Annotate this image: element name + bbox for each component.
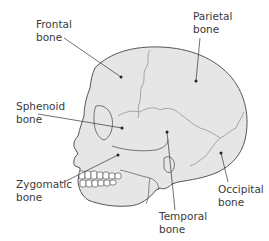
- label-zygomatic-bone: Zygomatic bone: [16, 178, 72, 204]
- label-temporal-bone: Temporal bone: [159, 210, 207, 236]
- label-frontal-bone: Frontal bone: [36, 18, 72, 44]
- label-occipital-bone: Occipital bone: [218, 183, 264, 209]
- skull-diagram: Frontal bone Parietal bone Sphenoid bone…: [0, 0, 269, 241]
- label-sphenoid-bone: Sphenoid bone: [16, 100, 65, 126]
- label-parietal-bone: Parietal bone: [193, 10, 232, 36]
